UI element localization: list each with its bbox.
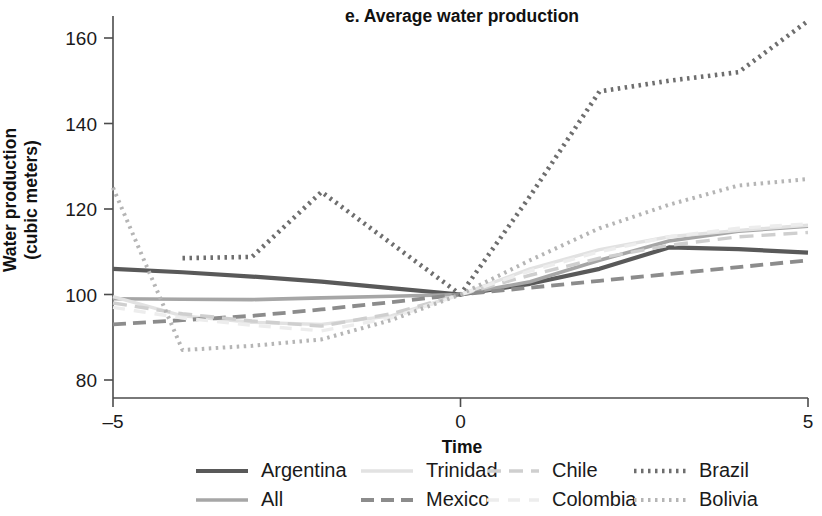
y-tick-label: 100 [65,285,97,306]
legend-item-colombia[interactable]: Colombia [487,488,637,510]
legend-label-bolivia: Bolivia [699,488,759,510]
water-production-line-chart: e. Average water production 801001201401… [0,0,822,516]
chart-figure: e. Average water production 801001201401… [0,0,822,516]
x-tick-label: 0 [455,411,466,432]
x-tick-label: 5 [803,411,814,432]
y-tick-label: 140 [65,114,97,135]
y-tick-label: 120 [65,199,97,220]
chart-series-group [113,21,808,350]
legend-label-colombia: Colombia [552,488,637,510]
series-line-argentina [113,247,808,294]
series-line-brazil [183,21,809,295]
legend-label-brazil: Brazil [699,459,749,481]
x-axis-title: Time [442,437,483,457]
x-tick-label: –5 [102,411,123,432]
legend-item-trinidad[interactable]: Trinidad [361,459,498,481]
chart-title: e. Average water production [345,6,579,26]
legend-item-argentina[interactable]: Argentina [196,459,347,481]
series-line-all [113,226,808,300]
legend-label-all: All [261,488,283,510]
chart-title-group: e. Average water production [345,6,579,26]
legend-item-chile[interactable]: Chile [487,459,598,481]
y-tick-label: 160 [65,28,97,49]
series-line-bolivia [113,179,808,350]
legend-label-trinidad: Trinidad [426,459,498,481]
legend-item-brazil[interactable]: Brazil [634,459,749,481]
chart-axes-group: 80100120140160–505 [65,16,813,432]
y-tick-label: 80 [76,370,97,391]
legend-label-chile: Chile [552,459,598,481]
legend-item-mexico[interactable]: Mexico [361,488,489,510]
y-axis-title: Water production(cubic meters) [0,128,40,272]
chart-legend-group: ArgentinaTrinidadChileBrazilAllMexicoCol… [196,459,759,510]
legend-item-bolivia[interactable]: Bolivia [634,488,759,510]
legend-label-argentina: Argentina [261,459,347,481]
legend-item-all[interactable]: All [196,488,283,510]
legend-label-mexico: Mexico [426,488,489,510]
